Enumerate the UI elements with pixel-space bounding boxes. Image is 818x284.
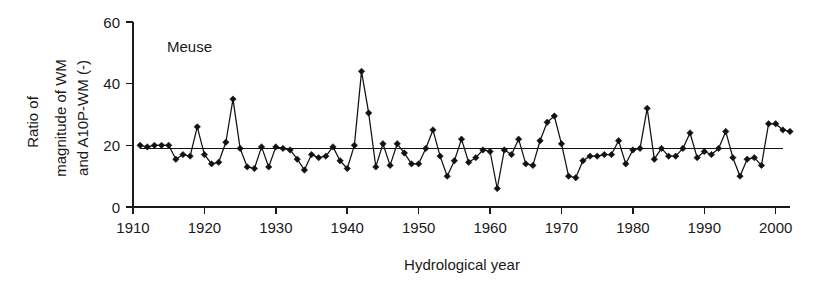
- series-annotation-meuse: Meuse: [167, 38, 212, 55]
- x-tick-label: 2000: [759, 219, 792, 236]
- data-point-marker: [580, 158, 586, 164]
- data-point-marker: [587, 153, 593, 159]
- data-point-marker: [444, 173, 450, 179]
- data-point-marker: [251, 165, 257, 171]
- data-point-marker: [351, 142, 357, 148]
- data-point-marker: [308, 151, 314, 157]
- data-point-marker: [594, 153, 600, 159]
- data-point-marker: [430, 127, 436, 133]
- x-axis-tick-labels: 1910192019301940195019601970198019902000: [116, 219, 792, 236]
- chart-canvas: Ratio of magnitude of WM and A10P-WM (-)…: [0, 0, 818, 284]
- x-tick-label: 1910: [116, 219, 149, 236]
- data-point-marker: [637, 145, 643, 151]
- data-point-marker: [358, 68, 364, 74]
- y-axis-title-line-1: Ratio of: [24, 95, 41, 148]
- chart-figure: Ratio of magnitude of WM and A10P-WM (-)…: [0, 0, 818, 284]
- data-point-marker: [194, 124, 200, 130]
- data-point-marker: [180, 151, 186, 157]
- data-point-marker: [537, 138, 543, 144]
- x-tick-label: 1990: [688, 219, 721, 236]
- data-point-marker: [387, 162, 393, 168]
- data-point-marker: [515, 136, 521, 142]
- data-point-marker: [265, 164, 271, 170]
- data-point-marker: [644, 105, 650, 111]
- data-point-marker: [573, 175, 579, 181]
- data-point-marker: [258, 144, 264, 150]
- data-point-marker: [465, 159, 471, 165]
- series-line-meuse: [140, 71, 790, 188]
- data-point-marker: [608, 151, 614, 157]
- y-axis-title-group: Ratio of magnitude of WM and A10P-WM (-): [24, 59, 91, 177]
- data-point-marker: [523, 161, 529, 167]
- data-point-marker: [508, 151, 514, 157]
- data-point-marker: [137, 142, 143, 148]
- data-point-marker: [223, 139, 229, 145]
- y-axis-tick-marks: [126, 22, 133, 207]
- data-point-marker: [187, 153, 193, 159]
- data-point-marker: [380, 141, 386, 147]
- x-tick-label: 1920: [188, 219, 221, 236]
- data-point-marker: [501, 147, 507, 153]
- data-point-marker: [151, 142, 157, 148]
- data-point-marker: [494, 185, 500, 191]
- series-markers-meuse: [137, 68, 793, 192]
- data-point-marker: [723, 128, 729, 134]
- data-point-marker: [373, 164, 379, 170]
- y-tick-label: 40: [103, 75, 120, 92]
- y-tick-label: 60: [103, 14, 120, 31]
- data-point-marker: [487, 148, 493, 154]
- data-point-marker: [365, 110, 371, 116]
- y-tick-label: 20: [103, 137, 120, 154]
- x-tick-label: 1930: [259, 219, 292, 236]
- data-point-marker: [230, 96, 236, 102]
- data-point-marker: [244, 164, 250, 170]
- data-point-marker: [437, 153, 443, 159]
- data-point-marker: [558, 141, 564, 147]
- x-tick-label: 1960: [473, 219, 506, 236]
- data-point-marker: [423, 145, 429, 151]
- data-point-marker: [237, 145, 243, 151]
- data-point-marker: [280, 145, 286, 151]
- data-point-marker: [565, 173, 571, 179]
- data-point-marker: [615, 138, 621, 144]
- data-point-marker: [215, 159, 221, 165]
- data-point-marker: [730, 154, 736, 160]
- data-point-marker: [787, 128, 793, 134]
- y-tick-label: 0: [112, 199, 120, 216]
- x-tick-label: 1940: [331, 219, 364, 236]
- data-point-marker: [158, 142, 164, 148]
- y-axis-tick-labels: 0204060: [103, 14, 120, 216]
- data-point-marker: [458, 136, 464, 142]
- x-tick-label: 1980: [616, 219, 649, 236]
- data-point-marker: [601, 151, 607, 157]
- data-point-marker: [744, 156, 750, 162]
- data-point-marker: [408, 161, 414, 167]
- data-point-marker: [301, 167, 307, 173]
- y-axis-title-line-2: magnitude of WM: [52, 59, 69, 177]
- data-point-marker: [273, 144, 279, 150]
- y-axis-title-line-3: and A10P-WM (-): [74, 60, 91, 176]
- data-point-marker: [530, 162, 536, 168]
- x-axis-tick-marks: [133, 207, 776, 214]
- x-tick-label: 1950: [402, 219, 435, 236]
- data-point-marker: [687, 130, 693, 136]
- data-point-marker: [451, 158, 457, 164]
- data-point-marker: [166, 142, 172, 148]
- data-point-marker: [737, 173, 743, 179]
- data-point-marker: [173, 156, 179, 162]
- data-point-marker: [144, 144, 150, 150]
- data-point-marker: [315, 154, 321, 160]
- data-point-marker: [623, 161, 629, 167]
- x-axis-title: Hydrological year: [404, 256, 520, 273]
- data-point-marker: [630, 147, 636, 153]
- data-point-marker: [765, 121, 771, 127]
- x-tick-label: 1970: [545, 219, 578, 236]
- data-point-marker: [415, 161, 421, 167]
- data-point-marker: [651, 156, 657, 162]
